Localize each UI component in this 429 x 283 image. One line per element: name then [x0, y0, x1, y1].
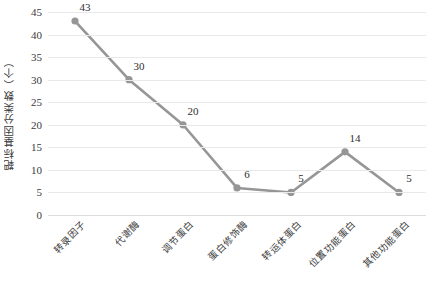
gridline: [48, 12, 426, 13]
y-axis-tick-label: 15: [31, 142, 42, 153]
y-axis-tick-label: 35: [31, 52, 42, 63]
gridline: [48, 80, 426, 81]
x-axis-tick-label: 转录因子: [52, 219, 89, 256]
y-axis-tick-labels: 051015202530354045: [18, 0, 46, 283]
y-axis-title-text: 靶标基因分类数（个）: [2, 55, 17, 170]
series-line-svg: [48, 12, 426, 215]
x-axis-tick-label: 调节蛋白: [160, 219, 197, 256]
gridline: [48, 102, 426, 103]
x-axis-tick-label: 其他功能蛋白: [361, 219, 412, 270]
x-axis-tick-label: 转运体蛋白: [261, 219, 305, 263]
x-axis-tick-label: 蛋白修饰酶: [207, 219, 251, 263]
gridline: [48, 192, 426, 193]
data-point-label: 5: [406, 173, 412, 184]
data-point-label: 43: [80, 2, 91, 13]
gridline: [48, 57, 426, 58]
y-axis-tick-label: 20: [31, 119, 42, 130]
y-axis-tick-label: 10: [31, 164, 42, 175]
series-line: [75, 21, 399, 192]
x-axis-tick-labels: 转录因子代谢酶调节蛋白蛋白修饰酶转运体蛋白位置功能蛋白其他功能蛋白: [48, 215, 426, 283]
gridline: [48, 170, 426, 171]
x-axis-tick-label: 代谢酶: [113, 219, 143, 249]
data-point-label: 20: [188, 106, 199, 117]
gridline: [48, 35, 426, 36]
y-axis-tick-label: 25: [31, 97, 42, 108]
y-axis-tick-label: 5: [37, 187, 43, 198]
gridline: [48, 125, 426, 126]
y-axis-title: 靶标基因分类数（个）: [0, 0, 18, 225]
data-point-label: 6: [244, 169, 250, 180]
data-point-marker[interactable]: [341, 148, 348, 155]
data-point-marker[interactable]: [71, 17, 78, 24]
data-point-marker[interactable]: [233, 184, 240, 191]
plot-area: 43302065145: [48, 12, 426, 215]
y-axis-tick-label: 45: [31, 7, 42, 18]
data-point-label: 14: [350, 133, 361, 144]
line-chart: 靶标基因分类数（个） 051015202530354045 4330206514…: [0, 0, 429, 283]
y-axis-tick-label: 30: [31, 74, 42, 85]
y-axis-tick-label: 0: [37, 210, 43, 221]
gridline: [48, 147, 426, 148]
y-axis-tick-label: 40: [31, 29, 42, 40]
x-axis-tick-label: 位置功能蛋白: [307, 219, 358, 270]
data-point-label: 30: [134, 61, 145, 72]
data-point-label: 5: [298, 173, 304, 184]
